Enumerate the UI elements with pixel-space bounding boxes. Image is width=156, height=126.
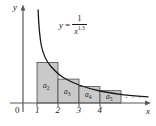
integral-test-figure: y x 0 1 2 3 4 a2 a3 a4 a5 · · · y = 1 x1… — [0, 0, 156, 126]
equation-denominator: x1.3 — [72, 25, 86, 36]
y-axis — [21, 5, 26, 113]
bar-label-a4: a4 — [85, 91, 92, 99]
function-equation: y = 1 x1.3 — [59, 15, 87, 36]
origin-label: 0 — [15, 106, 20, 115]
bar-label-a2-subscript: 2 — [47, 85, 50, 91]
bar-label-a4-subscript: 4 — [89, 94, 92, 100]
ellipsis-label: · · · — [125, 94, 142, 102]
x-axis-label: x — [146, 107, 150, 116]
bar-label-a3: a3 — [64, 88, 71, 96]
bar-label-a2: a2 — [43, 82, 50, 90]
y-axis-label: y — [13, 3, 17, 12]
x-tick-label-1: 1 — [35, 106, 40, 115]
equation-denominator-exponent: 1.3 — [78, 25, 85, 31]
x-tick-label-3: 3 — [77, 106, 82, 115]
bar-label-a3-subscript: 3 — [68, 91, 71, 97]
x-tick-label-4: 4 — [98, 106, 103, 115]
equation-fraction: 1 x1.3 — [72, 15, 87, 36]
x-tick-label-2: 2 — [56, 106, 61, 115]
equation-numerator: 1 — [76, 15, 84, 24]
equation-equals-sign: = — [65, 20, 70, 30]
equation-lhs: y — [59, 20, 63, 30]
bar-label-a5-subscript: 5 — [110, 96, 113, 102]
bar-label-a5: a5 — [106, 93, 113, 101]
